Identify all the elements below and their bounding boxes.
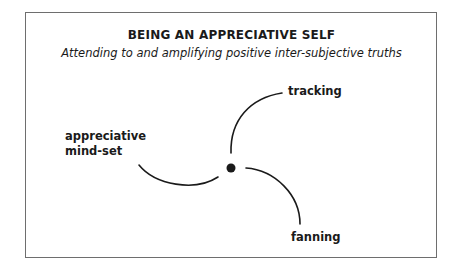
center-dot xyxy=(227,164,236,173)
fanning-curve xyxy=(246,168,300,224)
mindset-label-line1: appreciative xyxy=(65,129,146,144)
mindset-curve xyxy=(139,165,218,185)
tracking-curve xyxy=(231,93,282,153)
fanning-label: fanning xyxy=(291,230,341,245)
tracking-label: tracking xyxy=(288,84,342,99)
mindset-label-line2: mind-set xyxy=(65,144,146,159)
appreciative-mindset-label: appreciative mind-set xyxy=(65,129,146,159)
